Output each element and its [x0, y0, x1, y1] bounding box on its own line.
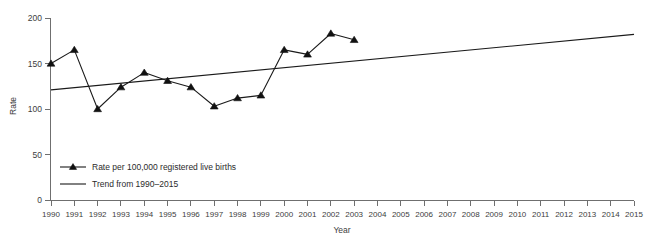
- data-point-marker: [327, 30, 335, 36]
- y-tick-label: 150: [28, 59, 42, 69]
- data-point-marker: [140, 69, 148, 75]
- x-tick-label: 2003: [345, 210, 363, 219]
- chart-legend: Rate per 100,000 registered live births …: [60, 162, 236, 189]
- x-tick-label: 2015: [625, 210, 643, 219]
- x-tick-label: 1990: [42, 210, 60, 219]
- x-axis-ticks: [51, 201, 634, 207]
- x-tick-label: 2000: [275, 210, 293, 219]
- line-chart: 050100150200 Rate 1990199119921993199419…: [0, 0, 654, 245]
- data-point-marker: [257, 92, 265, 98]
- y-tick-label: 0: [37, 195, 42, 205]
- x-tick-label: 1992: [89, 210, 107, 219]
- x-tick-label: 1991: [65, 210, 83, 219]
- chart-container: 050100150200 Rate 1990199119921993199419…: [0, 0, 654, 245]
- y-tick-label: 200: [28, 13, 42, 23]
- x-tick-label: 2011: [532, 210, 550, 219]
- x-tick-label: 1998: [229, 210, 247, 219]
- x-tick-label: 2007: [439, 210, 457, 219]
- legend-label-trend: Trend from 1990–2015: [92, 179, 178, 189]
- x-tick-label: 1994: [135, 210, 153, 219]
- x-tick-label: 1996: [182, 210, 200, 219]
- data-point-marker: [280, 46, 288, 52]
- trend-line-series: [51, 34, 634, 90]
- rate-line-series: [51, 33, 354, 109]
- x-axis: 1990199119921993199419951996199719981999…: [42, 201, 643, 236]
- x-tick-label: 2006: [415, 210, 433, 219]
- x-tick-label: 1995: [159, 210, 177, 219]
- x-tick-label: 2010: [509, 210, 527, 219]
- y-axis-tick-labels: 050100150200: [28, 13, 42, 205]
- y-tick-label: 50: [33, 150, 43, 160]
- legend-item-rate: Rate per 100,000 registered live births: [60, 162, 236, 172]
- x-tick-label: 2002: [322, 210, 340, 219]
- x-tick-label: 1999: [252, 210, 270, 219]
- x-tick-label: 2014: [602, 210, 620, 219]
- y-axis-ticks: [45, 18, 51, 200]
- plot-area: [47, 30, 634, 112]
- x-axis-tick-labels: 1990199119921993199419951996199719981999…: [42, 210, 643, 219]
- x-tick-label: 1993: [112, 210, 130, 219]
- data-point-marker: [70, 46, 78, 52]
- data-point-marker: [117, 84, 125, 90]
- y-axis: 050100150200 Rate: [8, 13, 51, 205]
- x-tick-label: 2008: [462, 210, 480, 219]
- x-tick-label: 2004: [369, 210, 387, 219]
- x-tick-label: 2001: [299, 210, 317, 219]
- legend-item-trend: Trend from 1990–2015: [60, 179, 178, 189]
- x-tick-label: 2012: [555, 210, 573, 219]
- x-tick-label: 2009: [485, 210, 503, 219]
- x-tick-label: 2005: [392, 210, 410, 219]
- y-tick-label: 100: [28, 104, 42, 114]
- y-axis-title: Rate: [8, 97, 18, 115]
- x-tick-label: 1997: [205, 210, 223, 219]
- x-tick-label: 2013: [578, 210, 596, 219]
- x-axis-title: Year: [333, 225, 350, 235]
- legend-label-rate: Rate per 100,000 registered live births: [92, 162, 236, 172]
